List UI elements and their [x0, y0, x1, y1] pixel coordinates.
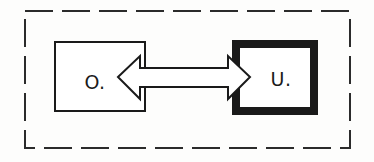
node-u-label: U. — [271, 68, 292, 90]
bidirectional-arrow-shape — [118, 56, 250, 99]
relationship-diagram: O. U. — [0, 0, 374, 162]
figure-container: O. U. — [0, 0, 374, 162]
node-o-label: O. — [84, 71, 105, 93]
bidirectional-arrow — [118, 56, 250, 99]
